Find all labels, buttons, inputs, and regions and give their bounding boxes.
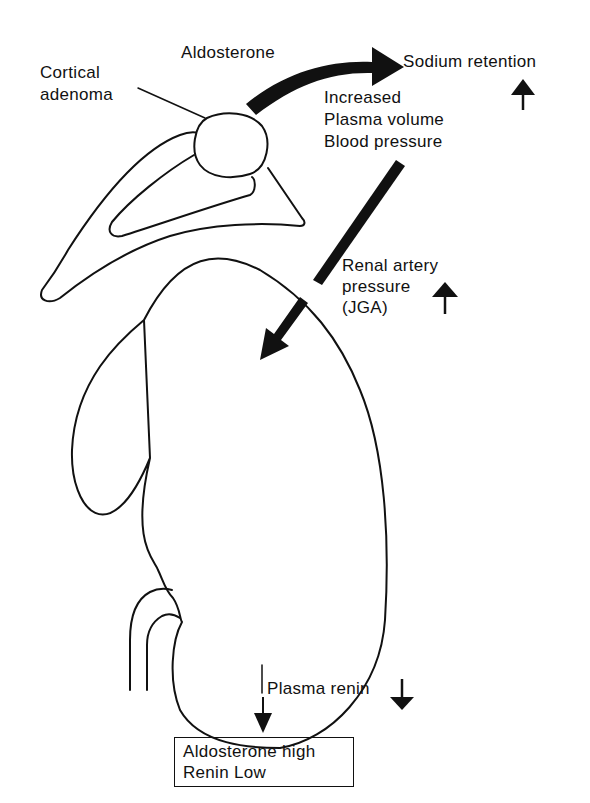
ureter-outer <box>130 589 172 690</box>
label-increased: Increased <box>324 87 401 108</box>
renal-pressure-up-arrow-icon <box>432 282 458 314</box>
kidney-outline <box>72 258 387 748</box>
renin-down-arrow-icon <box>390 679 414 710</box>
label-plasma-volume: Plasma volume <box>324 109 444 130</box>
label-cortical-adenoma-line1: Cortical <box>40 62 100 83</box>
label-plasma-renin: Plasma renin <box>267 678 370 699</box>
sodium-up-arrow-icon <box>511 79 535 110</box>
label-cortical-adenoma-line2: adenoma <box>40 84 113 105</box>
ureter-inner <box>147 614 180 690</box>
result-aldosterone-high: Aldosterone high <box>183 741 353 762</box>
label-jga: (JGA) <box>342 297 388 318</box>
label-blood-pressure: Blood pressure <box>324 131 443 152</box>
adenoma-leader-line <box>138 88 205 118</box>
label-sodium-retention: Sodium retention <box>403 51 536 72</box>
label-aldosterone: Aldosterone <box>181 42 275 63</box>
result-box: Aldosterone high Renin Low <box>174 737 354 787</box>
adenoma-nodule <box>194 113 267 177</box>
result-renin-low: Renin Low <box>183 762 353 783</box>
label-pressure: pressure <box>342 276 411 297</box>
pressure-arrow-lower <box>260 297 308 360</box>
renin-arrow <box>254 697 272 733</box>
label-renal-artery: Renal artery <box>342 255 438 276</box>
